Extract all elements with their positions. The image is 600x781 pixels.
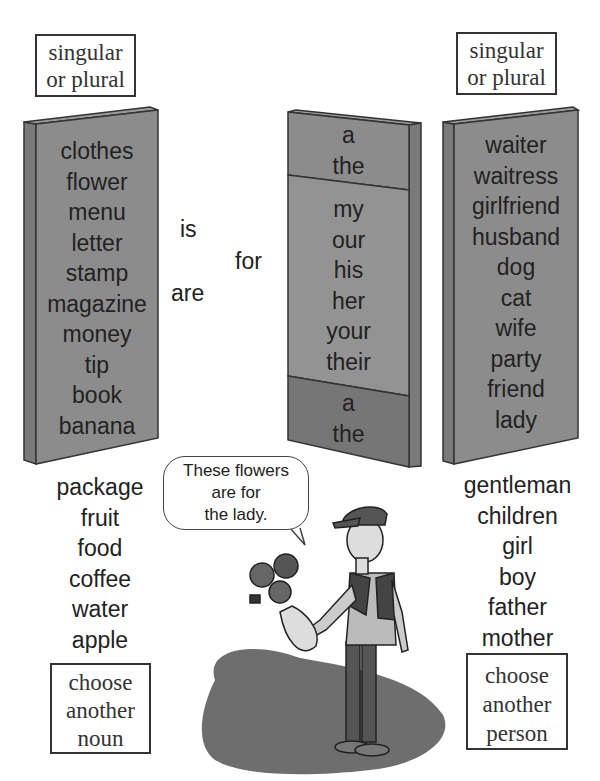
determiner-item[interactable]: her <box>288 286 409 317</box>
nouns-list: clothes flower menu letter stamp magazin… <box>36 136 158 441</box>
ground-shadow <box>202 649 446 774</box>
noun-item[interactable]: flower <box>36 167 158 198</box>
determiner-item[interactable]: a <box>288 120 409 151</box>
person-item[interactable]: husband <box>454 222 578 253</box>
noun-item[interactable]: book <box>36 380 158 411</box>
choose-another-person-box[interactable]: choose another person <box>466 653 568 750</box>
noun-item[interactable]: menu <box>36 197 158 228</box>
people-list: waiter waitress girlfriend husband dog c… <box>454 130 578 435</box>
speech-line1: These flowers <box>164 460 308 482</box>
left-header-line1: singular <box>37 39 134 66</box>
extra-person-item[interactable]: father <box>450 592 585 623</box>
speech-line2: are for <box>164 482 308 504</box>
choose-noun-line2: another <box>52 697 149 725</box>
person-item[interactable]: dog <box>454 252 578 283</box>
preposition-for: for <box>235 248 262 275</box>
right-header-line1: singular <box>458 37 555 64</box>
extra-noun-item[interactable]: fruit <box>40 503 160 534</box>
right-header-line2: or plural <box>458 64 555 91</box>
person-item[interactable]: waiter <box>454 130 578 161</box>
extra-person-item[interactable]: children <box>450 501 585 532</box>
determiner-item[interactable]: my <box>288 194 409 225</box>
speech-bubble: These flowers are for the lady. <box>163 456 309 530</box>
person-item[interactable]: lady <box>454 405 578 436</box>
choose-person-line1: choose <box>468 661 566 690</box>
determiner-item[interactable]: the <box>288 419 409 450</box>
verb-is[interactable]: is <box>180 216 197 243</box>
extra-noun-item[interactable]: package <box>40 472 160 503</box>
choose-another-noun-box[interactable]: choose another noun <box>50 663 151 754</box>
extra-noun-item[interactable]: apple <box>40 625 160 656</box>
extra-person-item[interactable]: girl <box>450 531 585 562</box>
extra-person-item[interactable]: boy <box>450 562 585 593</box>
determiner-item[interactable]: your <box>288 316 409 347</box>
person-item[interactable]: waitress <box>454 161 578 192</box>
determiner-item[interactable]: his <box>288 255 409 286</box>
extra-person-item[interactable]: mother <box>450 623 585 654</box>
extra-noun-item[interactable]: water <box>40 594 160 625</box>
person-item[interactable]: party <box>454 344 578 375</box>
extra-person-item[interactable]: gentleman <box>450 470 585 501</box>
extra-nouns-list: package fruit food coffee water apple <box>40 472 160 655</box>
extra-people-list: gentleman children girl boy father mothe… <box>450 470 585 653</box>
determiner-item[interactable]: the <box>288 151 409 182</box>
choose-person-line2: another <box>468 690 566 719</box>
person-item[interactable]: cat <box>454 283 578 314</box>
determiners-top: a the <box>288 120 409 181</box>
choose-noun-line3: noun <box>52 725 149 753</box>
verb-are[interactable]: are <box>171 280 204 307</box>
extra-noun-item[interactable]: food <box>40 533 160 564</box>
noun-item[interactable]: money <box>36 319 158 350</box>
determiners-bottom: a the <box>288 388 409 449</box>
person-item[interactable]: wife <box>454 313 578 344</box>
determiners-middle: my our his her your their <box>288 194 409 377</box>
extra-noun-item[interactable]: coffee <box>40 564 160 595</box>
right-header-box: singular or plural <box>456 32 557 95</box>
noun-item[interactable]: letter <box>36 228 158 259</box>
choose-person-line3: person <box>468 719 566 748</box>
determiner-item[interactable]: a <box>288 388 409 419</box>
choose-noun-line1: choose <box>52 669 149 697</box>
person-item[interactable]: friend <box>454 374 578 405</box>
left-header-line2: or plural <box>37 66 134 93</box>
determiner-item[interactable]: their <box>288 347 409 378</box>
person-item[interactable]: girlfriend <box>454 191 578 222</box>
determiner-item[interactable]: our <box>288 225 409 256</box>
noun-item[interactable]: clothes <box>36 136 158 167</box>
noun-item[interactable]: tip <box>36 350 158 381</box>
noun-item[interactable]: stamp <box>36 258 158 289</box>
speech-line3: the lady. <box>164 504 308 526</box>
left-header-box: singular or plural <box>35 34 136 97</box>
noun-item[interactable]: magazine <box>36 289 158 320</box>
noun-item[interactable]: banana <box>36 411 158 442</box>
